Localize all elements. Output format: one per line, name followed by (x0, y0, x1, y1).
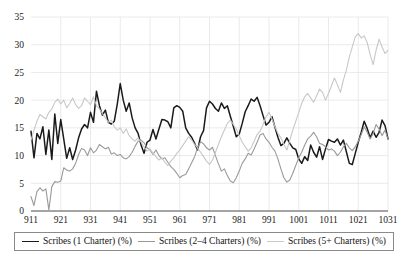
legend-item-2-4-charters: Scribes (2–4 Charters) (%) (138, 237, 261, 247)
x-tick-label: 981 (232, 215, 247, 225)
y-tick-label: 25 (15, 68, 25, 78)
x-tick-label: 961 (173, 215, 188, 225)
legend-swatch-2-4-charters (138, 241, 155, 242)
gridlines (31, 17, 388, 211)
y-tick-label: 5 (19, 179, 24, 189)
x-tick-label: 921 (54, 215, 69, 225)
legend-label-5plus-charters: Scribes (5+ Charters) (%) (288, 237, 386, 247)
x-tick-label: 1011 (319, 215, 338, 225)
chart-figure: 05101520253035 9119219319419519619719819… (0, 0, 408, 265)
y-tick-label: 35 (15, 12, 25, 22)
legend-label-1-charter: Scribes (1 Charter) (%) (43, 237, 132, 247)
x-tick-label: 971 (202, 215, 217, 225)
x-tick-label: 1001 (289, 215, 308, 225)
x-tick-label: 951 (143, 215, 158, 225)
y-tick-label: 15 (15, 123, 25, 133)
y-tick-label: 30 (15, 40, 25, 50)
y-tick-label: 20 (15, 96, 25, 106)
x-tick-label: 941 (113, 215, 128, 225)
chart-legend: Scribes (1 Charter) (%) Scribes (2–4 Cha… (14, 232, 394, 251)
legend-item-1-charter: Scribes (1 Charter) (%) (22, 237, 132, 247)
x-tick-label: 931 (83, 215, 98, 225)
x-tick-label: 1031 (379, 215, 398, 225)
x-tick-label: 991 (262, 215, 277, 225)
legend-item-5plus-charters: Scribes (5+ Charters) (%) (267, 237, 386, 247)
x-tick-label: 911 (24, 215, 38, 225)
legend-label-2-4-charters: Scribes (2–4 Charters) (%) (159, 237, 261, 247)
x-axis-tick-labels: 9119219319419519619719819911001101110211… (24, 215, 398, 225)
legend-swatch-1-charter (22, 241, 39, 242)
legend-swatch-5plus-charters (267, 241, 284, 242)
plot-area: 05101520253035 9119219319419519619719819… (0, 0, 408, 225)
y-axis-tick-labels: 05101520253035 (15, 12, 25, 216)
y-tick-label: 10 (15, 151, 25, 161)
x-tick-label: 1021 (349, 215, 368, 225)
chart-svg: 05101520253035 9119219319419519619719819… (0, 0, 408, 225)
